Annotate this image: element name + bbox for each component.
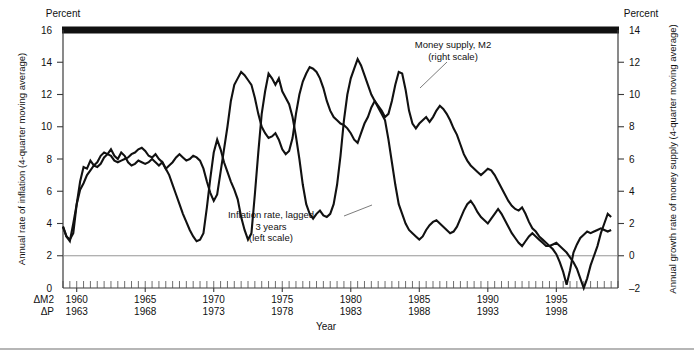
x-tick-label: 1970 (203, 294, 226, 305)
right-tick-label: 8 (629, 121, 635, 132)
x-tick-label: 1973 (203, 306, 226, 317)
left-tick-label: 14 (41, 57, 53, 68)
left-tick-label: 2 (46, 250, 52, 261)
x-axis-category-labels: ΔM219601965197019751980198519901995ΔP196… (33, 294, 567, 317)
right-axis-ticks (618, 62, 624, 256)
left-tick-label: 8 (46, 154, 52, 165)
left-tick-label: 16 (41, 25, 53, 36)
inflation-annotation-line: 3 years (255, 221, 286, 232)
right-axis-title: Annual growth rate of money supply (4-qu… (667, 24, 678, 293)
x-tick-label: 1985 (408, 294, 431, 305)
inflation-money-supply-chart: 0246810121416 –202468101214 Percent Perc… (0, 0, 694, 357)
x-row-key-delta-m2: ΔM2 (33, 294, 54, 305)
inflation-annotation-leader (344, 205, 372, 216)
money-supply-annotation-line: (right scale) (428, 51, 478, 62)
x-tick-label: 1983 (340, 306, 363, 317)
x-tick-label: 1980 (340, 294, 363, 305)
x-tick-label: 1998 (545, 306, 568, 317)
x-axis-title: Year (316, 321, 337, 332)
right-tick-label: –2 (629, 283, 641, 294)
left-tick-label: 4 (46, 218, 52, 229)
money-supply-annotation-leader (420, 62, 447, 88)
data-series-group (63, 59, 611, 288)
right-tick-label: 14 (629, 25, 641, 36)
right-tick-label: 12 (629, 57, 641, 68)
x-tick-label: 1965 (134, 294, 157, 305)
right-tick-label: 6 (629, 154, 635, 165)
left-axis-header: Percent (46, 8, 81, 19)
left-axis-ticks (57, 62, 63, 256)
left-tick-label: 10 (41, 121, 53, 132)
figure-container: 0246810121416 –202468101214 Percent Perc… (0, 0, 694, 357)
left-tick-label: 0 (46, 283, 52, 294)
x-row-key-delta-p: ΔP (41, 306, 55, 317)
series-inflation-rate-lagged-3-years (63, 59, 611, 288)
right-axis-header: Percent (624, 8, 659, 19)
right-tick-label: 2 (629, 218, 635, 229)
x-tick-label: 1975 (271, 294, 294, 305)
x-tick-label: 1960 (66, 294, 89, 305)
x-axis-minor-ticks (63, 281, 618, 288)
x-tick-label: 1990 (477, 294, 500, 305)
x-tick-label: 1995 (545, 294, 568, 305)
left-axis-tick-labels: 0246810121416 (41, 25, 53, 294)
x-tick-label: 1978 (271, 306, 294, 317)
right-tick-label: 10 (629, 89, 641, 100)
x-tick-label: 1988 (408, 306, 431, 317)
left-tick-label: 12 (41, 89, 53, 100)
right-tick-label: 0 (629, 250, 635, 261)
inflation-annotation-line: Inflation rate, lagged (228, 209, 314, 220)
x-tick-label: 1968 (134, 306, 157, 317)
right-tick-label: 4 (629, 186, 635, 197)
right-axis-tick-labels: –202468101214 (629, 25, 641, 294)
left-tick-label: 6 (46, 186, 52, 197)
left-axis-title: Annual rate of inflation (4-quarter movi… (16, 53, 27, 265)
x-tick-label: 1963 (66, 306, 89, 317)
x-tick-label: 1993 (477, 306, 500, 317)
money-supply-annotation-line: Money supply, M2 (415, 39, 491, 50)
chart-annotations: Money supply, M2(right scale)Inflation r… (228, 39, 491, 243)
inflation-annotation-line: (left scale) (249, 232, 293, 243)
